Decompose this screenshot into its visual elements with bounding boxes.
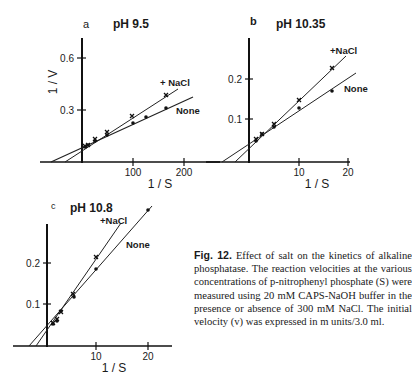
panel-c-xtick: 10 (90, 351, 102, 362)
panel-c-line-nacl (36, 223, 121, 346)
panel-a-ytick: 0.3 (60, 105, 74, 116)
panel-a-title: pH 9.5 (113, 17, 149, 31)
panel-b-line-nacl (235, 56, 346, 162)
panel-a: a pH 9.5 0.6 0.3 100 200 1 / S 1 / V (40, 17, 220, 191)
panel-c-xtick: 20 (142, 351, 154, 362)
panel-b-ytick: 0.1 (228, 114, 242, 125)
panel-b-xtick: 20 (342, 167, 354, 178)
figure-label: Fig. 12. (194, 249, 232, 261)
panel-b-legend-nacl: +NaCl (330, 45, 357, 56)
panel-b-ytick: 0.2 (228, 74, 242, 85)
panel-a-xlabel: 1 / S (148, 177, 173, 191)
panel-a-ylabel: 1 / V (46, 70, 60, 95)
figure-caption: Fig. 12. Effect of salt on the kinetics … (194, 249, 412, 328)
panel-c-letter: c (51, 201, 56, 211)
panel-b-letter: b (250, 15, 257, 27)
panel-c-ytick: 0.2 (26, 258, 40, 269)
panel-c-ytick: 0.1 (26, 299, 40, 310)
panel-c-legend-nacl: +NaCl (100, 215, 127, 226)
panel-a-legend-none: None (176, 105, 200, 116)
panel-a-xtick: 100 (125, 167, 142, 178)
panel-a-xtick: 200 (176, 167, 193, 178)
panel-a-letter: a (83, 18, 90, 30)
panel-b: b pH 10.35 0.2 0.1 10 20 1 / S +NaCl Non… (200, 15, 368, 191)
panel-b-line-none (222, 73, 356, 162)
caption-text: Effect of salt on the kinetics of alkali… (194, 250, 412, 327)
panel-b-xlabel: 1 / S (305, 177, 330, 191)
panel-a-legend-nacl: + NaCl (160, 77, 190, 88)
panel-c: c pH 10.8 0.2 0.1 10 20 1 / S +NaCl None (13, 201, 172, 373)
panel-b-title: pH 10.35 (276, 17, 326, 31)
panel-a-ytick: 0.6 (60, 53, 74, 64)
panel-c-legend-none: None (126, 239, 150, 250)
panel-b-markers-none (254, 89, 334, 143)
panel-b-legend-none: None (344, 83, 368, 94)
panel-c-xlabel: 1 / S (102, 361, 127, 373)
panel-b-markers-nacl (254, 66, 334, 141)
panel-b-xtick: 10 (293, 167, 305, 178)
panel-c-title: pH 10.8 (70, 201, 113, 215)
